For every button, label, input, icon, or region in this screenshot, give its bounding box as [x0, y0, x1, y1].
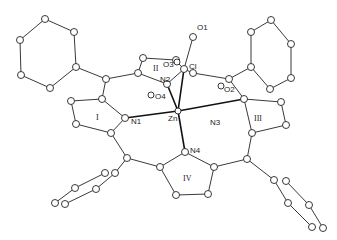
atoms [17, 16, 327, 232]
label-o4: O4 [155, 92, 166, 101]
molecular-structure-diagram: Zn N1 N2 N3 N4 Cl O1 O2 O3 O4 I II III I… [0, 0, 337, 240]
label-n4: N4 [190, 146, 201, 155]
label-o1: O1 [197, 23, 208, 32]
label-o3: O3 [163, 60, 174, 69]
label-zn: Zn [168, 114, 177, 123]
ring-label-3: III [254, 114, 262, 123]
ring-label-1: I [96, 113, 99, 122]
label-n3: N3 [210, 118, 221, 127]
label-cl: Cl [189, 62, 197, 71]
ring-label-2: II [153, 64, 159, 73]
bonds [20, 19, 323, 228]
label-n2: N2 [160, 75, 171, 84]
ring-label-4: IV [183, 174, 192, 183]
label-n1: N1 [131, 117, 142, 126]
label-o2: O2 [224, 85, 235, 94]
